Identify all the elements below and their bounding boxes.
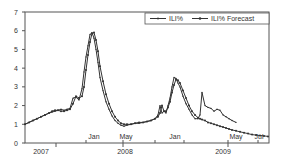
forecast-data-point [102, 80, 104, 82]
forecast-data-point [89, 41, 91, 43]
y-tick-label: 1 [14, 121, 18, 128]
y-tick-label: 0 [14, 140, 18, 147]
forecast-data-point [213, 123, 215, 125]
forecast-data-point [91, 33, 93, 35]
ili-data-point [199, 114, 200, 115]
forecast-data-point [63, 110, 65, 112]
x-year-label: 2008 [117, 148, 133, 155]
ili-data-point [219, 110, 220, 111]
forecast-data-point [97, 50, 99, 52]
forecast-data-point [69, 108, 71, 110]
forecast-data-point [95, 39, 97, 41]
x-month-label: Jan [88, 133, 99, 140]
ili-data-point [97, 62, 98, 63]
forecast-data-point [146, 121, 148, 123]
forecast-data-point [263, 135, 265, 137]
forecast-data-point [167, 106, 169, 108]
forecast-data-point [201, 119, 203, 121]
forecast-data-point [44, 114, 46, 116]
legend-ili-label: ILI% [169, 15, 183, 22]
ili-data-point [201, 92, 202, 93]
forecast-data-point [267, 135, 269, 137]
forecast-data-point [123, 123, 125, 125]
forecast-data-point [157, 116, 159, 118]
ili-data-point [87, 45, 88, 46]
forecast-data-point [87, 54, 89, 56]
forecast-data-point [219, 125, 221, 127]
forecast-data-point [85, 69, 87, 71]
ili-data-point [228, 118, 229, 119]
ili-data-point [95, 49, 96, 50]
x-month-label: Jul [255, 133, 264, 140]
forecast-data-point [36, 118, 38, 120]
legend-forecast-label: ILI% Forecast [211, 15, 254, 22]
y-tick-label: 7 [14, 9, 18, 16]
forecast-data-point [138, 121, 140, 123]
ili-data-point [216, 109, 217, 110]
ili-data-point [117, 123, 118, 124]
y-tick-label: 3 [14, 83, 18, 90]
ili-data-point [111, 115, 112, 116]
forecast-data-point [32, 120, 34, 122]
forecast-data-point [188, 105, 190, 107]
forecast-data-point [114, 116, 116, 118]
forecast-data-point [150, 120, 152, 122]
forecast-data-point [83, 86, 85, 88]
ili-data-point [185, 103, 186, 104]
ili-data-point [204, 105, 205, 106]
forecast-data-point [24, 123, 26, 125]
forecast-data-point [72, 103, 74, 105]
forecast-data-point [60, 110, 62, 112]
forecast-data-point [243, 132, 245, 134]
plot-frame [25, 12, 269, 143]
forecast-data-point [154, 118, 156, 120]
ili-data-point [210, 108, 211, 109]
ili-data-point [120, 125, 121, 126]
forecast-data-point [142, 121, 144, 123]
ili-data-point [81, 88, 82, 89]
legend-ili-marker-icon [157, 18, 159, 20]
ili-data-point [108, 109, 109, 110]
forecast-data-point [207, 121, 209, 123]
ili-data-point [165, 112, 166, 113]
x-year-label: 2007 [33, 148, 49, 155]
ili-data-point [114, 120, 115, 121]
ili-data-point [93, 38, 94, 39]
ili-data-point [177, 82, 178, 83]
ili-data-point [78, 99, 79, 100]
forecast-data-point [177, 79, 179, 81]
forecast-data-point [222, 126, 224, 128]
forecast-data-point [48, 112, 50, 114]
ili-data-point [99, 77, 100, 78]
x-month-label: Jan [169, 133, 180, 140]
forecast-data-point [111, 110, 113, 112]
ili-data-point [123, 126, 124, 127]
ili-data-point [235, 122, 236, 123]
forecast-data-point [159, 112, 161, 114]
forecast-data-point [231, 129, 233, 131]
ili-data-point [188, 109, 189, 110]
forecast-data-point [40, 116, 42, 118]
x-month-label: May [229, 133, 243, 141]
ili-data-point [191, 114, 192, 115]
forecast-data-point [182, 90, 184, 92]
forecast-data-point [130, 123, 132, 125]
forecast-data-point [81, 95, 83, 97]
x-month-label: May [119, 133, 133, 141]
forecast-data-point [66, 109, 68, 111]
forecast-data-point [108, 103, 110, 105]
forecast-data-point [251, 134, 253, 136]
forecast-data-point [51, 110, 53, 112]
forecast-data-point [185, 97, 187, 99]
x-year-label: 2009 [215, 148, 231, 155]
forecast-data-point [163, 110, 165, 112]
ili-data-point [89, 34, 90, 35]
forecast-data-point [191, 110, 193, 112]
legend: ILI% ILI% Forecast [145, 13, 269, 24]
forecast-data-point [247, 133, 249, 135]
forecast-data-point [117, 120, 119, 122]
ili-data-point [171, 86, 172, 87]
forecast-data-point [197, 117, 199, 119]
forecast-data-point [173, 84, 175, 86]
forecast-data-point [105, 93, 107, 95]
